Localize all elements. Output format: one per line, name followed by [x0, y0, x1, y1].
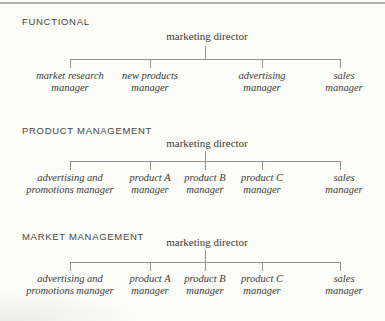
- chart-heading: MARKET MANAGEMENT: [22, 231, 144, 242]
- branch-node-label: market research manager: [36, 70, 104, 93]
- connector-branch-tick: [340, 262, 341, 271]
- connector-branch-tick: [205, 161, 206, 170]
- connector-branch-tick: [262, 161, 263, 170]
- connector-branch-tick: [340, 161, 341, 170]
- connector-branch-tick: [150, 59, 151, 68]
- connector-root-stem: [205, 151, 206, 161]
- connector-branch-tick: [262, 262, 263, 271]
- top-rule: [0, 2, 385, 4]
- branch-node-label: sales manager: [325, 172, 362, 195]
- branch-node-label: sales manager: [325, 70, 362, 93]
- branch-node-label: new products manager: [122, 70, 178, 93]
- branch-node-label: advertising manager: [238, 70, 285, 93]
- figure-org-structures: FUNCTIONAL marketing director market res…: [0, 0, 385, 321]
- connector-root-stem: [205, 250, 206, 262]
- branch-node-label: sales manager: [325, 273, 362, 296]
- root-node-label: marketing director: [166, 30, 248, 42]
- connector-branch-tick: [70, 262, 71, 271]
- connector-branch-tick: [70, 59, 71, 68]
- root-node-label: marketing director: [166, 236, 248, 248]
- chart-heading: PRODUCT MANAGEMENT: [22, 125, 152, 136]
- chart-heading: FUNCTIONAL: [22, 16, 90, 27]
- connector-branch-tick: [340, 59, 341, 68]
- root-node-label: marketing director: [166, 137, 248, 149]
- branch-node-label: product C manager: [241, 273, 283, 296]
- connector-branch-tick: [150, 262, 151, 271]
- connector-branch-tick: [70, 161, 71, 170]
- connector-branch-tick: [205, 262, 206, 271]
- branch-node-label: product A manager: [129, 273, 170, 296]
- connector-root-stem: [205, 46, 206, 59]
- branch-node-label: advertising and promotions manager: [26, 172, 113, 195]
- branch-node-label: advertising and promotions manager: [26, 273, 113, 296]
- branch-node-label: product B manager: [184, 273, 225, 296]
- connector-branch-tick: [262, 59, 263, 68]
- branch-node-label: product A manager: [129, 172, 170, 195]
- connector-branch-tick: [150, 161, 151, 170]
- connector-horizontal: [70, 59, 341, 60]
- branch-node-label: product C manager: [241, 172, 283, 195]
- branch-node-label: product B manager: [184, 172, 225, 195]
